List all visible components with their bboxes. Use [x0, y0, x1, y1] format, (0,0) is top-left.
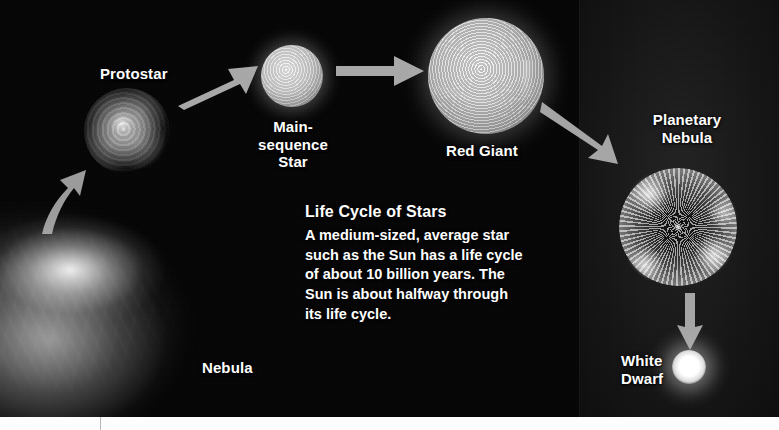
arrow-protostar-to-mainsequence-icon	[176, 60, 262, 112]
arrow-redgiant-to-planetarynebula-icon	[540, 98, 630, 170]
arrow-planetarynebula-to-whitedwarf-icon	[676, 293, 704, 351]
label-planetary-nebula: Planetary Nebula	[639, 111, 735, 146]
panel-divider	[578, 0, 580, 417]
arrow-mainsequence-to-redgiant-icon	[334, 54, 426, 88]
life-cycle-of-stars-figure: Protostar Main-sequence Star Red Giant P…	[0, 0, 779, 430]
caption-block: Life Cycle of Stars A medium-sized, aver…	[305, 203, 530, 325]
caption-body: A medium-sized, average star such as the…	[305, 226, 530, 325]
label-nebula: Nebula	[202, 359, 253, 377]
label-red-giant: Red Giant	[446, 142, 518, 160]
planetary-nebula-rim-icon	[619, 168, 737, 286]
label-main-sequence-star: Main-sequence Star	[244, 118, 342, 171]
caption-heading: Life Cycle of Stars	[305, 203, 530, 221]
arrow-nebula-to-protostar-icon	[28, 160, 108, 240]
label-white-dwarf: White Dwarf	[621, 352, 663, 387]
white-dwarf-icon	[672, 350, 706, 384]
footer-rule	[100, 417, 101, 430]
label-protostar: Protostar	[100, 65, 168, 83]
main-sequence-star-texture-icon	[261, 45, 323, 107]
footer-strip	[0, 417, 779, 430]
